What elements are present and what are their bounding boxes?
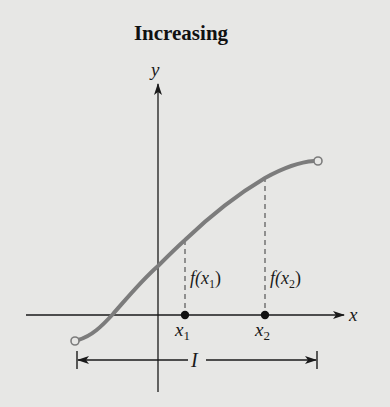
label-f-x2: f(x2) <box>270 268 301 291</box>
point-x1 <box>181 311 189 319</box>
point-x2 <box>261 311 269 319</box>
x-axis-label: x <box>348 304 358 325</box>
right-open-endpoint <box>314 157 322 165</box>
diagram: Increasing y x x1 x2 <box>0 0 390 407</box>
y-axis-label: y <box>149 59 160 80</box>
label-x1: x1 <box>174 319 190 343</box>
label-x2: x2 <box>254 319 270 343</box>
left-open-endpoint <box>71 337 79 345</box>
graph-canvas: y x x1 x2 f(x1) f(x2) I <box>0 0 390 407</box>
increasing-curve <box>78 161 314 340</box>
interval-label: I <box>190 349 199 371</box>
label-f-x1: f(x1) <box>190 268 221 291</box>
